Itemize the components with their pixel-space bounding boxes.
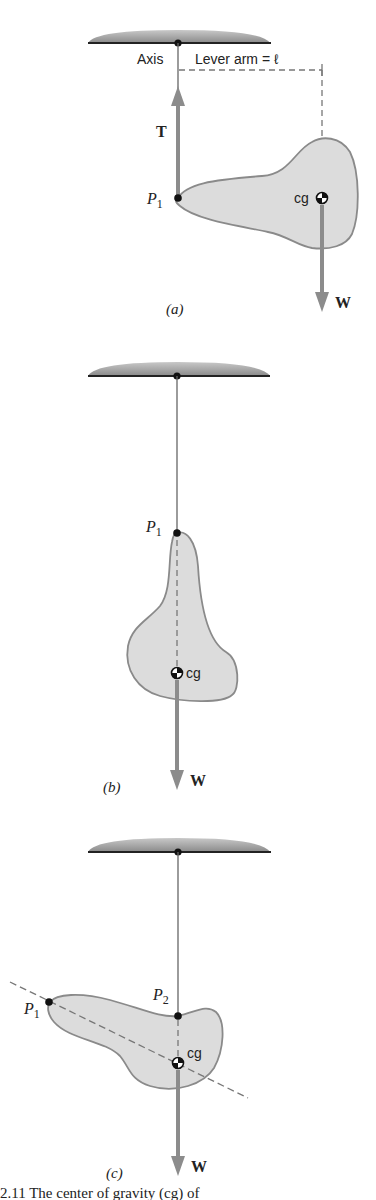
p1-label: P1 — [145, 518, 162, 539]
point-p1 — [45, 998, 53, 1006]
p2-label: P2 — [152, 986, 169, 1007]
cg-label: cg — [186, 665, 201, 681]
panel-b-label: (b) — [103, 779, 121, 796]
panel-c-label: (c) — [106, 1165, 123, 1182]
weight-label: W⃗ — [335, 294, 363, 311]
weight-arrowhead — [171, 1156, 185, 1176]
cg-symbol — [317, 193, 328, 204]
cg-symbol — [172, 668, 183, 679]
weight-arrowhead — [170, 770, 184, 790]
figure-caption: 2.11 The center of gravity (cg) of — [0, 1186, 376, 1200]
weight-label: W⃗ — [190, 772, 218, 789]
cg-symbol — [173, 1058, 184, 1069]
panel-b — [88, 362, 270, 790]
panel-a-label: (a) — [166, 301, 184, 318]
object-body — [48, 995, 222, 1089]
weight-arrowhead — [315, 292, 329, 312]
p1-label: P1 — [23, 1000, 40, 1021]
axis-label: Axis — [137, 51, 163, 67]
cg-label: cg — [294, 190, 309, 206]
lever-arm-label: Lever arm = ℓ — [195, 51, 279, 67]
tension-label: T⃗ — [156, 123, 179, 140]
panel-c — [10, 838, 271, 1176]
weight-label: W⃗ — [191, 1158, 219, 1175]
tension-arrowhead — [171, 86, 185, 106]
cg-label: cg — [187, 1045, 202, 1061]
pivot-point-p1 — [174, 194, 182, 202]
pivot-point-p1 — [173, 529, 181, 537]
p1-label: P1 — [146, 190, 163, 211]
object-body — [176, 138, 358, 248]
point-p2 — [174, 1012, 182, 1020]
panel-a — [88, 30, 358, 312]
